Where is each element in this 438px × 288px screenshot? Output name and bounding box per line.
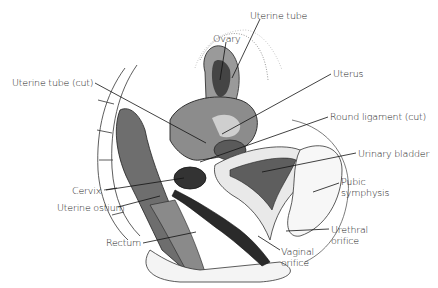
label-rectum: Rectum (106, 237, 141, 248)
uterus-shape (170, 97, 257, 160)
label-round-ligament-cut: Round ligament (cut) (330, 111, 426, 122)
label-vaginal-orifice-line1: Vaginal (281, 246, 314, 257)
label-ovary: Ovary (213, 33, 240, 44)
label-uterine-ostium: Uterine ostium (57, 202, 125, 213)
label-uterine-tube-cut: Uterine tube (cut) (12, 77, 93, 88)
label-pubic-symphysis-line2: symphysis (341, 187, 389, 198)
anatomy-diagram: Uterine tube Ovary Uterus Uterine tube (… (0, 0, 438, 288)
label-urethral-orifice-line1: Urethral (331, 224, 368, 235)
label-cervix: Cervix (72, 185, 101, 196)
label-urethral-orifice: Urethral orifice (331, 224, 368, 246)
label-urinary-bladder: Urinary bladder (358, 148, 429, 159)
label-pubic-symphysis: Pubic symphysis (341, 176, 389, 198)
cervix-shape (174, 167, 206, 189)
label-vaginal-orifice-line2: orifice (281, 257, 314, 268)
label-pubic-symphysis-line1: Pubic (341, 176, 389, 187)
label-uterine-tube: Uterine tube (250, 10, 307, 21)
label-urethral-orifice-line2: orifice (331, 235, 368, 246)
label-vaginal-orifice: Vaginal orifice (281, 246, 314, 268)
label-uterus: Uterus (333, 68, 363, 79)
